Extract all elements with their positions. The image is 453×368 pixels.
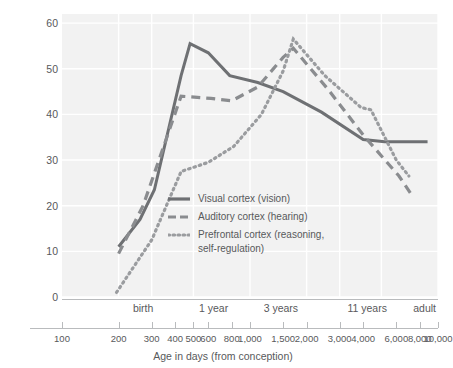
x-number-label: 10,000 xyxy=(423,333,452,344)
x-axis-number-labels: 1002003004005006008001,0001,5002,0003,00… xyxy=(0,333,446,349)
x-number-label: 1,000 xyxy=(238,333,262,344)
x-axis-tick xyxy=(175,322,176,328)
legend-label: Visual cortex (vision) xyxy=(198,192,290,206)
x-number-label: 3,000 xyxy=(328,333,352,344)
x-axis-category-labels: birth1 year3 years11 yearsadult xyxy=(62,299,438,318)
x-number-label: 200 xyxy=(111,333,127,344)
legend-item: Prefrontal cortex (reasoning, self-regul… xyxy=(168,228,324,256)
x-number-label: 6,000 xyxy=(384,333,408,344)
x-axis-tick xyxy=(193,322,194,328)
legend-label: Auditory cortex (hearing) xyxy=(198,210,308,224)
x-category-label: adult xyxy=(413,302,436,314)
x-category-label: 1 year xyxy=(199,302,228,314)
legend-swatch-dotted-icon xyxy=(168,228,190,242)
y-tick-label: 60 xyxy=(28,17,58,29)
x-axis-tick xyxy=(363,322,364,328)
x-category-label: 11 years xyxy=(347,302,387,314)
x-axis-tick xyxy=(340,322,341,328)
legend-swatch-dashed-icon xyxy=(168,210,190,224)
y-tick-label: 0 xyxy=(28,291,58,303)
x-number-label: 300 xyxy=(144,333,160,344)
chart-legend: Visual cortex (vision)Auditory cortex (h… xyxy=(168,192,324,260)
x-number-label: 600 xyxy=(200,333,216,344)
x-axis-tick xyxy=(283,322,284,328)
x-number-label: 100 xyxy=(54,333,70,344)
x-category-label: 3 years xyxy=(264,302,298,314)
x-number-label: 400 xyxy=(167,333,183,344)
x-number-label: 2,000 xyxy=(295,333,319,344)
x-axis-tick xyxy=(438,322,439,328)
legend-item: Visual cortex (vision) xyxy=(168,192,324,206)
legend-item: Auditory cortex (hearing) xyxy=(168,210,324,224)
legend-swatch-solid-icon xyxy=(168,192,190,206)
legend-label: Prefrontal cortex (reasoning, self-regul… xyxy=(198,228,324,256)
y-tick-label: 50 xyxy=(28,63,58,75)
y-tick-label: 10 xyxy=(28,245,58,257)
x-axis-tick xyxy=(307,322,308,328)
x-number-label: 4,000 xyxy=(351,333,375,344)
y-axis-tick-labels: 0102030405060 xyxy=(28,0,58,368)
x-axis-tick xyxy=(232,322,233,328)
x-axis-tick xyxy=(62,322,63,328)
x-number-label: 1,500 xyxy=(271,333,295,344)
x-category-label: birth xyxy=(133,302,153,314)
y-tick-label: 40 xyxy=(28,108,58,120)
x-axis-tick xyxy=(396,322,397,328)
x-axis-tick xyxy=(119,322,120,328)
y-tick-label: 30 xyxy=(28,154,58,166)
x-axis-tick xyxy=(152,322,153,328)
x-number-label: 500 xyxy=(185,333,201,344)
x-axis-title: Age in days (from conception) xyxy=(0,350,446,362)
y-tick-label: 20 xyxy=(28,200,58,212)
x-axis-tick xyxy=(208,322,209,328)
x-axis-line xyxy=(30,328,438,329)
x-axis-tick xyxy=(420,322,421,328)
x-axis-tick xyxy=(250,322,251,328)
